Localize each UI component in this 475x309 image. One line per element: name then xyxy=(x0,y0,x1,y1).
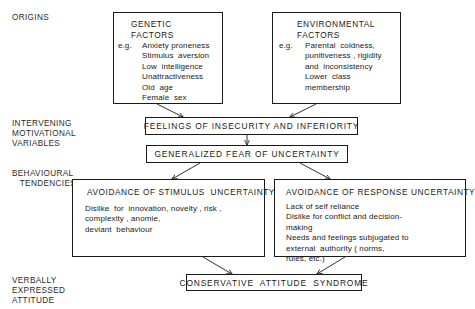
environmental-factors-item-list: Parental coldness, punitiveness , rigidi… xyxy=(305,41,382,93)
arrow-generalized-to-response xyxy=(300,163,330,179)
stimulus-uncertainty-title: AVOIDANCE OF STIMULUS UNCERTAINTY xyxy=(87,187,275,197)
environmental-factors-eg-label: e.g. xyxy=(279,41,293,50)
box-feelings-of-insecurity-and-inferiority: FEELINGS OF INSECURITY AND INFERIORITY xyxy=(145,117,358,135)
genetic-factors-eg-label: e.g. xyxy=(118,41,132,50)
arrow-genetic-to-feelings xyxy=(157,104,183,117)
box-environmental-factors: ENVIRONMENTAL FACTORS e.g. Parental cold… xyxy=(272,12,401,104)
box-conservative-attitude-syndrome: CONSERVATIVE ATTITUDE SYNDROME xyxy=(186,274,362,291)
generalized-fear-label: GENERALIZED FEAR OF UNCERTAINTY xyxy=(154,149,339,159)
arrow-stimulus-to-syndrome xyxy=(203,257,232,274)
genetic-factors-title: GENETIC FACTORS xyxy=(131,19,174,40)
stimulus-uncertainty-body: Dislike for innovation, novelty , risk ,… xyxy=(85,204,222,235)
stage-label-verbally-expressed-attitude: VERBALLY EXPRESSED ATTITUDE xyxy=(12,276,65,307)
arrow-environmental-to-feelings xyxy=(290,104,316,117)
genetic-factors-item-list: Anxiety proneness Stimulus aversion Low … xyxy=(142,41,210,103)
box-avoidance-of-stimulus-uncertainty: AVOIDANCE OF STIMULUS UNCERTAINTY Dislik… xyxy=(72,179,265,257)
box-genetic-factors: GENETIC FACTORS e.g. Anxiety proneness S… xyxy=(113,12,223,104)
box-generalized-fear-of-uncertainty: GENERALIZED FEAR OF UNCERTAINTY xyxy=(146,145,348,163)
arrow-generalized-to-stimulus xyxy=(172,163,200,179)
stage-label-behavioural-tendencies: BEHAVIOURAL TENDENCIES xyxy=(12,169,76,189)
conservative-attitude-syndrome-label: CONSERVATIVE ATTITUDE SYNDROME xyxy=(180,278,369,288)
conservatism-flow-diagram: ORIGINS INTERVENING MOTIVATIONAL VARIABL… xyxy=(0,0,475,309)
environmental-factors-title: ENVIRONMENTAL FACTORS xyxy=(297,19,375,40)
box-avoidance-of-response-uncertainty: AVOIDANCE OF RESPONSE UNCERTAINTY Lack o… xyxy=(274,179,466,257)
stage-label-origins: ORIGINS xyxy=(12,13,49,23)
stage-label-intervening-motivational-variables: INTERVENING MOTIVATIONAL VARIABLES xyxy=(12,119,76,150)
feelings-label: FEELINGS OF INSECURITY AND INFERIORITY xyxy=(144,121,360,131)
response-uncertainty-title: AVOIDANCE OF RESPONSE UNCERTAINTY xyxy=(286,187,475,197)
response-uncertainty-body: Lack of self reliance Dislike for confli… xyxy=(286,202,409,264)
